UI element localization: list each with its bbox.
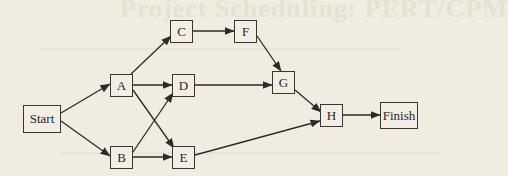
node-finish: Finish bbox=[380, 102, 418, 129]
node-label: G bbox=[279, 75, 288, 91]
node-g: G bbox=[272, 71, 295, 94]
node-f: F bbox=[234, 20, 257, 43]
node-b: B bbox=[110, 146, 133, 169]
node-label: A bbox=[117, 78, 126, 94]
node-label: B bbox=[117, 150, 126, 166]
edge-e-to-h bbox=[195, 121, 320, 155]
edge-a-to-e bbox=[133, 90, 174, 148]
node-label: Start bbox=[30, 111, 55, 127]
node-label: D bbox=[179, 78, 188, 94]
edge-g-to-h bbox=[295, 90, 321, 112]
node-label: E bbox=[180, 150, 188, 166]
node-h: H bbox=[320, 104, 343, 127]
node-a: A bbox=[110, 74, 133, 97]
node-d: D bbox=[172, 74, 195, 97]
node-label: F bbox=[242, 24, 249, 40]
node-e: E bbox=[172, 146, 195, 169]
node-label: Finish bbox=[383, 108, 416, 124]
edge-b-to-d bbox=[133, 93, 173, 152]
edge-start-to-b bbox=[61, 121, 110, 156]
node-start: Start bbox=[23, 105, 61, 133]
node-label: H bbox=[327, 108, 336, 124]
node-label: C bbox=[177, 24, 186, 40]
edge-f-to-g bbox=[257, 36, 281, 71]
edge-a-to-c bbox=[131, 36, 171, 74]
node-c: C bbox=[170, 20, 193, 43]
edge-start-to-a bbox=[61, 84, 110, 113]
